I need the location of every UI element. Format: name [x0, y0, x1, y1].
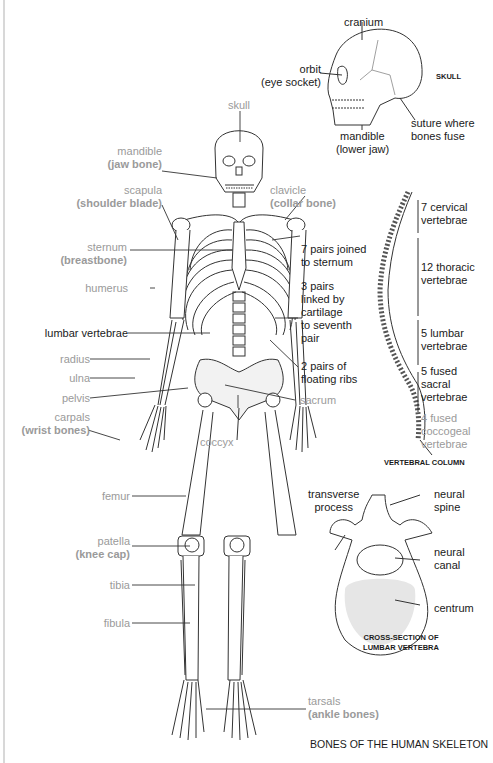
label-suture-line2: bones fuse: [411, 130, 465, 143]
label-skull: skull: [228, 99, 250, 112]
label-centrum: centrum: [434, 602, 474, 615]
label-floating-ribs: 2 pairs of floating ribs: [301, 360, 357, 386]
label-tarsals-common: (ankle bones): [308, 708, 379, 721]
label-pelvis: pelvis: [62, 392, 90, 405]
label-scapula: scapula: [124, 184, 162, 197]
label-patella-common: (knee cap): [76, 548, 130, 561]
label-humerus: humerus: [85, 282, 128, 295]
lumbar-vertebra-caption: CROSS-SECTION OF LUMBAR VERTEBRA: [346, 633, 456, 653]
label-thoracic: 12 thoracic vertebrae: [421, 261, 475, 287]
skull-caption: SKULL: [436, 72, 461, 82]
label-carpals: carpals: [55, 411, 90, 424]
label-inset-mandible: mandible: [340, 130, 385, 143]
label-neural-spine: neural spine: [434, 488, 465, 514]
label-lumbar-vertebrae: lumbar vertebrae: [45, 327, 128, 340]
label-radius: radius: [60, 353, 90, 366]
label-patella: patella: [98, 535, 130, 548]
lumbar-vertebra-drawing: [330, 495, 432, 655]
label-scapula-common: (shoulder blade): [76, 197, 162, 210]
label-mandible-common: (jaw bone): [108, 158, 162, 171]
label-tarsals: tarsals: [308, 695, 340, 708]
vertebral-column-caption: VERTEBRAL COLUMN: [384, 458, 465, 468]
label-clavicle: clavicle: [270, 184, 306, 197]
label-sacral: 5 fused sacral vertebrae: [421, 365, 467, 404]
label-carpals-common: (wrist bones): [22, 424, 90, 437]
label-lumbar: 5 lumbar vertebrae: [421, 327, 467, 353]
label-orbit: orbit: [300, 63, 321, 76]
skull-inset-drawing: [320, 22, 422, 130]
label-femur: femur: [102, 490, 130, 503]
label-orbit-common: (eye socket): [261, 76, 321, 89]
label-tibia: tibia: [110, 579, 130, 592]
label-clavicle-common: (collar bone): [270, 197, 336, 210]
label-suture-line1: suture where: [411, 117, 475, 130]
label-neural-canal: neural canal: [434, 546, 465, 572]
label-sacrum: sacrum: [300, 394, 336, 407]
label-sternum-common: (breastbone): [60, 254, 127, 267]
label-transverse-process: transverse process: [308, 488, 359, 514]
label-mandible: mandible: [117, 145, 162, 158]
diagram-title: BONES OF THE HUMAN SKELETON: [310, 738, 488, 751]
label-coccygeal: 4 fused coccogeal vertebrae: [421, 412, 471, 451]
label-coccyx: coccyx: [200, 436, 234, 449]
label-ulna: ulna: [69, 372, 90, 385]
label-false-ribs: 3 pairs linked by cartilage to seventh p…: [301, 280, 352, 345]
label-fibula: fibula: [104, 617, 130, 630]
label-cranium: cranium: [344, 16, 383, 29]
label-cervical: 7 cervical vertebrae: [421, 201, 467, 227]
label-inset-mandible-common: (lower jaw): [336, 143, 389, 156]
label-true-ribs: 7 pairs joined to sternum: [301, 243, 366, 269]
label-sternum: sternum: [87, 241, 127, 254]
